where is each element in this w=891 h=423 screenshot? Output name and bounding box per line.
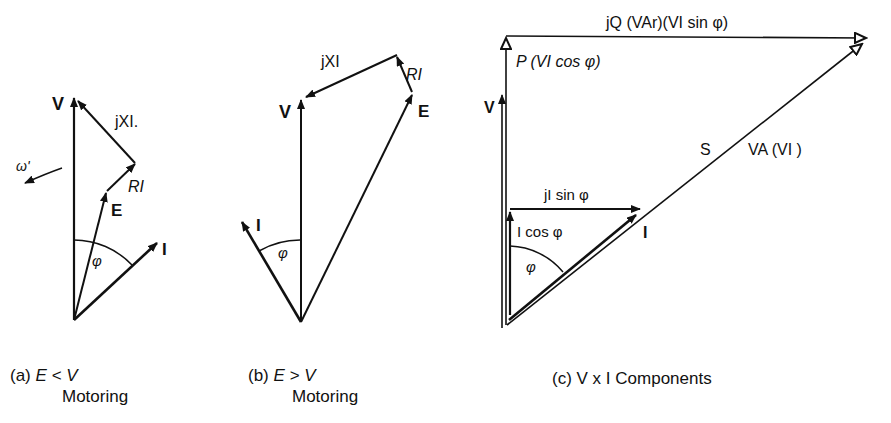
caption-b-prefix: (b)	[248, 366, 269, 385]
phasor-jxi-a	[78, 101, 135, 163]
label-s: S	[700, 141, 711, 158]
diagram-b: V jXI RI E I φ	[242, 53, 429, 322]
label-e-a: E	[111, 201, 122, 220]
phasor-jxi-b	[306, 55, 397, 97]
caption-c-prefix: (c)	[552, 369, 572, 388]
phasor-e-b	[301, 95, 412, 322]
label-jq: jQ (VAr)(VI sin φ)	[605, 14, 728, 31]
caption-a-prefix: (a)	[10, 366, 31, 385]
label-jxi-b: jXI	[320, 53, 340, 70]
caption-b: (b) E > V Motoring	[248, 365, 358, 407]
label-ri-a: RI	[128, 178, 145, 195]
label-icos: I cos φ	[517, 223, 563, 240]
caption-b-condition: E > V	[274, 366, 316, 385]
caption-a: (a) E < V Motoring	[10, 365, 128, 407]
label-i-c: I	[643, 224, 647, 241]
label-omega: ω'	[16, 158, 31, 174]
rotation-arrow-icon	[25, 168, 62, 183]
caption-c-text: V x I Components	[577, 369, 712, 388]
label-phi-c: φ	[526, 258, 536, 275]
phasor-s	[507, 44, 862, 325]
caption-a-mode: Motoring	[10, 386, 128, 407]
phasor-jq	[506, 36, 866, 38]
caption-b-mode: Motoring	[248, 386, 358, 407]
label-p: P (VI cos φ)	[516, 53, 601, 70]
caption-a-condition: E < V	[36, 366, 78, 385]
label-v-c: V	[484, 99, 495, 116]
label-i-a: I	[162, 240, 167, 259]
caption-c: (c) V x I Components	[552, 368, 712, 389]
label-va: VA (VI )	[748, 141, 802, 158]
phasor-i-a	[74, 243, 157, 320]
label-v-b: V	[279, 102, 291, 122]
label-ri-b: RI	[406, 66, 423, 83]
label-v-a: V	[52, 94, 64, 114]
label-phi-b: φ	[278, 244, 288, 261]
label-e-b: E	[418, 102, 429, 121]
angle-arc-c	[510, 246, 563, 272]
angle-arc-a	[74, 240, 132, 265]
phasor-diagrams: V jXI. RI E I φ ω' V jXI RI E I φ	[0, 0, 891, 423]
label-phi-a: φ	[92, 252, 102, 269]
diagram-a: V jXI. RI E I φ ω'	[16, 94, 167, 320]
label-i-b: I	[256, 216, 261, 235]
label-jxi-a: jXI.	[114, 113, 138, 130]
phasor-i-b	[242, 222, 301, 322]
diagram-c: jQ (VAr)(VI sin φ) P (VI cos φ) V S VA (…	[484, 14, 866, 328]
label-jisin: jI sin φ	[543, 186, 589, 203]
